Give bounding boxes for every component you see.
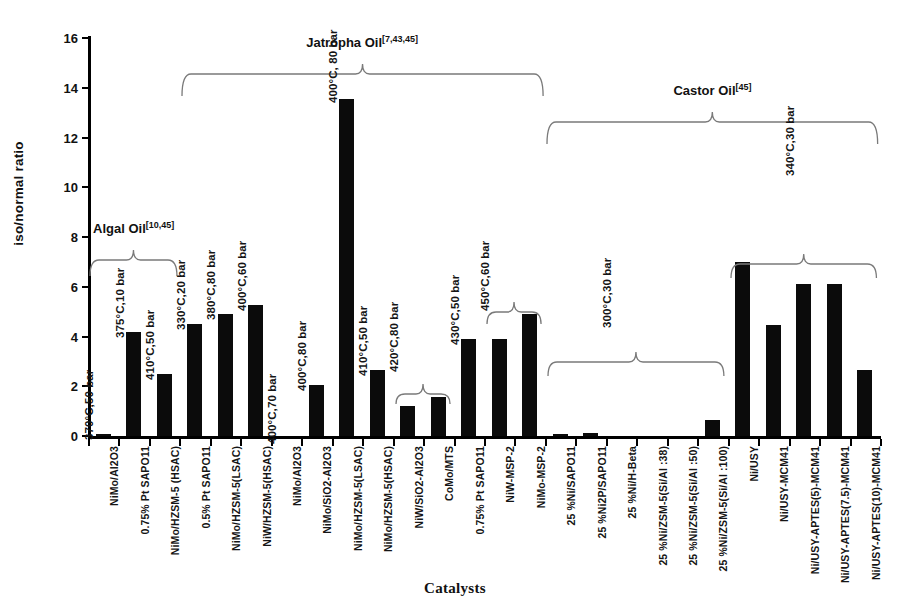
- group-label: Jatropha Oil[7,43,45]: [306, 34, 418, 50]
- x-axis-category-label: 0.5% Pt SAPO11: [200, 446, 212, 529]
- x-axis-tick-mark: [850, 439, 852, 446]
- bar-condition-label: 370°C,50 bar: [83, 370, 95, 440]
- group-label: Castor Oil[45]: [673, 82, 751, 98]
- x-axis-tick-mark: [789, 439, 791, 446]
- x-axis-tick-mark: [758, 439, 760, 446]
- x-axis-tick-mark: [606, 439, 608, 446]
- bar: [339, 99, 354, 436]
- group-bracket: [181, 62, 544, 98]
- x-axis-tick-mark: [697, 439, 699, 446]
- x-axis-category-label: NiMo/HZSM-5 (HSAC): [169, 446, 181, 555]
- y-axis-tick-label: 14: [44, 80, 78, 95]
- sub-bracket: [730, 252, 877, 280]
- x-axis-tick-mark: [880, 439, 882, 446]
- x-axis-category-label: NiMo/SiO2-Al2O3: [321, 446, 333, 534]
- bar: [857, 370, 872, 436]
- x-axis-category-label: Ni/USY: [748, 446, 760, 482]
- bar-condition-label: 450°C,60 bar: [479, 241, 491, 311]
- bar-condition-label: 340°C,30 bar: [784, 106, 796, 176]
- x-axis-category-label: NiMo/Al2O3: [291, 446, 303, 506]
- bar-condition-label: 430°C,50 bar: [449, 275, 461, 345]
- group-bracket: [89, 248, 178, 278]
- y-axis-title: iso/normal ratio: [11, 104, 26, 284]
- bar: [583, 433, 598, 436]
- group-label: Algal Oil[10,45]: [93, 220, 174, 236]
- x-axis-category-label: 25 %Ni/ZSM-5(Si/Al :100): [717, 446, 729, 572]
- x-axis-tick-mark: [454, 439, 456, 446]
- bar: [796, 284, 811, 436]
- y-axis-tick-label: 16: [44, 31, 78, 46]
- bar: [735, 262, 750, 436]
- y-axis-tick-label: 6: [44, 279, 78, 294]
- bar-condition-label: 400°C,60 bar: [236, 241, 248, 311]
- x-axis-tick-mark: [88, 439, 90, 446]
- x-axis-tick-mark: [210, 439, 212, 446]
- x-axis-tick-mark: [423, 439, 425, 446]
- x-axis-tick-mark: [514, 439, 516, 446]
- x-axis-tick-mark: [240, 439, 242, 446]
- x-axis-category-label: NiMo-MSP-2: [535, 446, 547, 508]
- y-axis-tick-label: 10: [44, 180, 78, 195]
- y-axis-tick-label: 8: [44, 230, 78, 245]
- bar: [96, 434, 111, 436]
- x-axis-category-label: NiW/SiO2-Al2O3: [413, 446, 425, 529]
- x-axis-category-label: 25 %Ni/ZSM-5(Si/Al :50): [687, 446, 699, 566]
- x-axis-category-label: NiW-MSP-2: [504, 446, 516, 503]
- x-axis-category-label: NiMo/Al2O3: [108, 446, 120, 506]
- x-axis-tick-mark: [667, 439, 669, 446]
- x-axis-tick-mark: [362, 439, 364, 446]
- x-axis-category-label: 25 %Ni2P/SAPO11: [596, 446, 608, 539]
- bar-condition-label: 400°C,70 bar: [266, 374, 278, 444]
- bar-condition-label: 420°C,80 bar: [388, 302, 400, 372]
- bar-condition-label: 410°C,50 bar: [144, 309, 156, 379]
- bar-condition-label: 300°C,30 bar: [601, 258, 613, 328]
- x-axis-category-label: NiMo/HZSM-5(LSAC): [352, 446, 364, 551]
- bar: [827, 284, 842, 436]
- x-axis-category-label: Ni/USY-APTES(5)-MCM41: [809, 446, 821, 574]
- bar-condition-label: 375°C,10 bar: [114, 267, 126, 337]
- x-axis-category-label: Ni/USY-APTES(7.5)-MCM41: [839, 446, 851, 583]
- x-axis-tick-mark: [575, 439, 577, 446]
- bar-condition-label: 400°C, 80 bar: [327, 29, 339, 103]
- bar: [248, 305, 263, 436]
- x-axis-tick-mark: [484, 439, 486, 446]
- y-axis-tick-label: 2: [44, 379, 78, 394]
- bar: [492, 339, 507, 436]
- sub-bracket: [547, 350, 725, 378]
- x-axis-tick-mark: [301, 439, 303, 446]
- bar: [187, 324, 202, 436]
- x-axis-tick-mark: [728, 439, 730, 446]
- x-axis-category-label: NiW/HZSM-5(HSAC): [261, 446, 273, 547]
- bar: [218, 314, 233, 436]
- y-axis-tick-label: 12: [44, 130, 78, 145]
- group-bracket: [546, 110, 879, 146]
- x-axis-tick-mark: [179, 439, 181, 446]
- x-axis-category-label: 25 %Ni/H-Beta: [626, 446, 638, 519]
- bar: [309, 385, 324, 436]
- x-axis-tick-mark: [332, 439, 334, 446]
- bar: [553, 434, 568, 436]
- y-axis-tick-label: 0: [44, 429, 78, 444]
- x-axis-category-label: CoMo/MTS: [443, 446, 455, 501]
- bar: [461, 339, 476, 436]
- bar: [400, 406, 415, 436]
- x-axis-category-label: NiMo/HZSM-5(LSAC): [230, 446, 242, 551]
- x-axis-tick-mark: [149, 439, 151, 446]
- bar: [126, 332, 141, 436]
- bar: [766, 325, 781, 436]
- x-axis-category-label: 25 %Ni/ZSM-5(Si/Al :38): [657, 446, 669, 566]
- x-axis-category-label: 0.75% Pt SAPO11: [474, 446, 486, 534]
- x-axis-category-label: Ni/USY-MCM41: [778, 446, 790, 522]
- x-axis-category-label: 0.75% Pt SAPO11: [139, 446, 151, 534]
- bar-condition-label: 410°C,50 bar: [357, 306, 369, 376]
- x-axis-tick-mark: [393, 439, 395, 446]
- bar-condition-label: 330°C,20 bar: [175, 260, 187, 330]
- bar: [157, 374, 172, 436]
- bar-condition-label: 400°C,80 bar: [296, 321, 308, 391]
- sub-bracket: [395, 382, 451, 406]
- bar: [370, 370, 385, 436]
- x-axis-title: Catalysts: [0, 580, 910, 597]
- x-axis-category-label: Ni/USY-APTES(10)-MCM41: [870, 446, 882, 580]
- x-axis-tick-mark: [118, 439, 120, 446]
- sub-bracket: [486, 300, 542, 326]
